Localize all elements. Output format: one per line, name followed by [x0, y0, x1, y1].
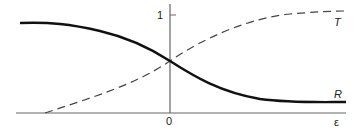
chart: 1 T R 0 ε — [0, 0, 363, 131]
x-tick-label-0: 0 — [166, 115, 172, 127]
series-label-T: T — [334, 16, 342, 28]
x-axis-label: ε — [334, 116, 339, 128]
series-label-R: R — [334, 88, 342, 100]
curve-R — [20, 23, 346, 102]
curve-T — [45, 11, 346, 113]
y-tick-label-1: 1 — [157, 9, 163, 21]
